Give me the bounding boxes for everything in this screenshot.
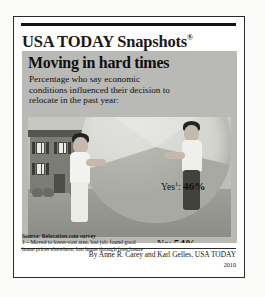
house-shutter — [32, 163, 35, 175]
house-shutter — [32, 142, 35, 154]
masthead: USA TODAY Snapshots® — [22, 28, 237, 50]
byline: By Anne R. Carey and Karl Gelles, USA TO… — [89, 250, 236, 269]
source-note: Source: Relocation.com survey 1 – Moved … — [22, 233, 228, 252]
arm — [164, 152, 185, 159]
pie-label-yes-text: Yes1: — [161, 181, 183, 192]
torso — [70, 152, 90, 184]
masthead-brand: USA TODAY Snapshots — [22, 32, 187, 51]
pie-value-yes: 46% — [183, 180, 205, 192]
house-window — [36, 142, 45, 154]
pie-label-yes: Yes1: 46% — [161, 176, 205, 194]
bush — [32, 188, 43, 197]
torso — [182, 140, 202, 172]
house-door — [54, 174, 65, 193]
house-window — [58, 142, 67, 154]
legs — [71, 182, 88, 222]
page-title: Moving in hard times — [28, 54, 169, 72]
house-shutter — [68, 142, 71, 154]
registered-mark-icon: ® — [187, 33, 193, 42]
arm — [86, 159, 106, 166]
subtitle: Percentage who say economic conditions i… — [29, 74, 177, 106]
footnote-line-2: home prices elsewhere, lost home through… — [22, 246, 228, 252]
pie-sphere — [80, 117, 231, 223]
snapshot-infographic: USA TODAY Snapshots® Moving in hard time… — [0, 0, 265, 297]
content-panel: Moving in hard times Percentage who say … — [22, 51, 237, 243]
byline-year: 2010 — [89, 260, 236, 269]
masthead-title: USA TODAY Snapshots® — [22, 28, 237, 52]
house-window — [36, 163, 45, 175]
house-shutter — [46, 163, 49, 175]
house-shutter — [54, 142, 57, 154]
bush — [43, 188, 54, 197]
house-shutter — [46, 142, 49, 154]
infographic-frame: USA TODAY Snapshots® Moving in hard time… — [13, 16, 245, 278]
masthead-rule — [21, 23, 236, 26]
